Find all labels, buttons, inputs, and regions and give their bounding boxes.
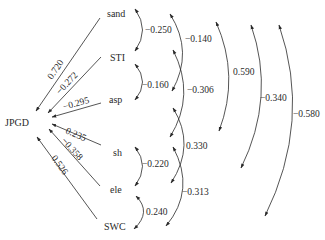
- corr-label-sand-sh: 0.590: [233, 67, 255, 77]
- path-arrow-sand: [36, 18, 100, 111]
- corr-arc-sand-swc: [265, 25, 293, 216]
- corr-arc-sand-sti: [135, 9, 143, 51]
- corr-label-sti-sh: −0.306: [187, 85, 214, 95]
- corr-label-asp-ele: 0.330: [186, 141, 208, 151]
- corr-label-ele-swc: 0.240: [146, 207, 168, 217]
- node-sh: sh: [113, 147, 122, 158]
- corr-label-sand-swc: −0.580: [293, 109, 320, 119]
- corr-label-sti-asp: −0.160: [142, 80, 169, 90]
- node-jpgd: JPGD: [5, 117, 29, 128]
- corr-label-sand-sti: −0.250: [145, 25, 172, 35]
- corr-arc-sand-sh: [216, 22, 229, 131]
- coef-sand: 0.720: [45, 58, 65, 82]
- corr-label-sh-swc: −0.313: [182, 187, 209, 197]
- corr-label-sh-ele: −0.220: [142, 159, 169, 169]
- corr-arc-ele-swc: [134, 196, 144, 229]
- coef-asp: −0.295: [62, 95, 91, 112]
- coef-swc: 0.526: [49, 153, 70, 176]
- corr-arc-sand-ele: [241, 25, 261, 168]
- corr-label-sand-asp: −0.140: [185, 34, 212, 44]
- node-swc: SWC: [104, 221, 126, 232]
- corr-label-sand-ele: −0.340: [260, 93, 287, 103]
- node-sti: STI: [110, 52, 125, 63]
- path-diagram: JPGD sand STI asp sh ele SWC 0.720 −0.27…: [0, 0, 325, 240]
- node-sand: sand: [107, 8, 125, 19]
- corr-arc-sand-asp: [170, 14, 183, 91]
- node-ele: ele: [110, 184, 122, 195]
- node-asp: asp: [109, 94, 122, 105]
